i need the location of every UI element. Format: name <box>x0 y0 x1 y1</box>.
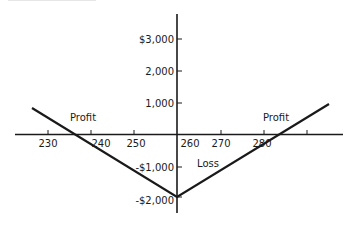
y-label-1000: 1,000 <box>145 98 174 109</box>
profit-label-left: Profit <box>70 112 96 123</box>
y-label-3000: $3,000 <box>139 34 174 45</box>
profit-label-right: Profit <box>263 112 289 123</box>
y-label-neg-2000: -$2,000 <box>135 195 174 206</box>
x-label-230: 230 <box>38 138 57 149</box>
loss-label: Loss <box>197 158 219 169</box>
x-label-270: 270 <box>211 138 230 149</box>
profit-loss-diagram: 230 240 250 260 270 280 $3,000 2,000 1,0… <box>0 0 355 227</box>
x-label-250: 250 <box>126 138 145 149</box>
y-label-neg-1000: -$1,000 <box>135 162 174 173</box>
y-label-2000: 2,000 <box>145 66 174 77</box>
x-label-260: 260 <box>180 138 199 149</box>
